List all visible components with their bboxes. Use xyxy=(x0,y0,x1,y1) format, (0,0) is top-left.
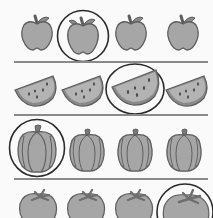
watermelon-item-1[interactable] xyxy=(13,74,59,108)
pumpkin-icon xyxy=(116,128,154,174)
pumpkin-icon xyxy=(68,128,106,174)
watermelon-slice-icon xyxy=(13,74,59,108)
watermelon-slice-icon xyxy=(164,74,210,108)
row-tomatoes xyxy=(0,180,213,218)
tomato-item-4[interactable] xyxy=(155,182,213,218)
watermelon-item-4[interactable] xyxy=(164,74,210,108)
tomato-item-3[interactable] xyxy=(114,188,154,218)
apple-item-2[interactable] xyxy=(56,9,110,63)
row-pumpkins xyxy=(0,115,213,178)
tomato-item-1[interactable] xyxy=(18,188,58,218)
pumpkin-item-2[interactable] xyxy=(68,128,106,174)
apple-icon xyxy=(20,14,54,52)
apple-item-3[interactable] xyxy=(114,14,148,52)
circled-pumpkin xyxy=(8,118,66,178)
tomato-icon xyxy=(114,188,154,218)
apple-item-4[interactable] xyxy=(166,14,200,52)
pumpkin-item-4[interactable] xyxy=(165,128,203,174)
row-apples xyxy=(0,0,213,60)
tomato-icon xyxy=(66,188,106,218)
tomato-icon xyxy=(18,188,58,218)
circled-tomato xyxy=(155,182,213,218)
row-watermelons xyxy=(0,62,213,114)
watermelon-item-3[interactable] xyxy=(104,62,166,118)
pumpkin-icon xyxy=(165,128,203,174)
tomato-item-2[interactable] xyxy=(66,188,106,218)
watermelon-slice-icon xyxy=(60,74,106,108)
worksheet xyxy=(0,0,213,218)
apple-icon xyxy=(166,14,200,52)
apple-icon xyxy=(114,14,148,52)
circled-watermelon xyxy=(104,62,166,118)
pumpkin-item-1[interactable] xyxy=(8,118,66,178)
apple-item-1[interactable] xyxy=(20,14,54,52)
pumpkin-item-3[interactable] xyxy=(116,128,154,174)
watermelon-item-2[interactable] xyxy=(60,74,106,108)
circled-apple xyxy=(56,9,110,63)
